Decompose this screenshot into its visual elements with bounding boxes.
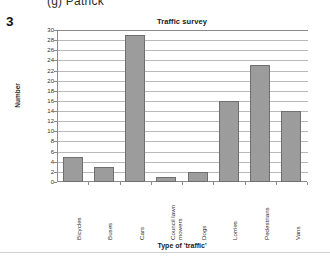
bars-layer (57, 30, 307, 182)
x-tick-mark (120, 182, 121, 185)
x-tick-mark (182, 182, 183, 185)
x-tick-label: Dogs (200, 226, 207, 240)
y-tick-label: 26 (38, 47, 54, 53)
x-tick-label: Lorries (231, 221, 238, 240)
y-tick-label: 6 (38, 149, 54, 155)
bar (188, 172, 208, 182)
x-tick-mark (213, 182, 214, 185)
x-tick-mark (276, 182, 277, 185)
x-tick-label: Pedestrians (263, 207, 270, 240)
x-tick-mark (245, 182, 246, 185)
x-tick-label: Bicycles (75, 217, 82, 240)
bar (219, 101, 239, 182)
x-axis-tick-labels: BicyclesBusesCarsCouncil lawn mowersDogs… (57, 186, 307, 242)
y-tick-label: 14 (38, 108, 54, 114)
bar (63, 157, 83, 182)
y-tick-label: 22 (38, 68, 54, 74)
previous-part-label: (g) Patrick (47, 0, 104, 8)
bar (125, 35, 145, 182)
chart-title: Traffic survey (57, 17, 307, 26)
x-tick-label: Cars (138, 227, 145, 240)
y-tick-label: 18 (38, 88, 54, 94)
x-tick-mark (151, 182, 152, 185)
x-tick-mark (307, 182, 308, 185)
bar-chart-figure: Traffic survey Number 302826242220181614… (0, 14, 330, 267)
x-axis-title: Type of 'traffic' (57, 242, 307, 249)
y-axis-title: Number (14, 73, 21, 119)
bar (281, 111, 301, 182)
x-tick-label: Buses (106, 223, 113, 240)
y-tick-label: 16 (38, 98, 54, 104)
y-tick-label: 10 (38, 128, 54, 134)
y-tick-label: 24 (38, 57, 54, 63)
x-tick-mark (88, 182, 89, 185)
page-bottom-rule (0, 252, 330, 253)
y-tick-label: 4 (38, 159, 54, 165)
y-tick-label: 30 (38, 27, 54, 33)
x-tick-label: Vans (294, 226, 301, 240)
y-axis-tick-labels: 302826242220181614121086420 (35, 30, 54, 182)
worksheet-header: (g) Patrick (0, 0, 330, 14)
y-tick-label: 2 (38, 169, 54, 175)
y-tick-label: 20 (38, 78, 54, 84)
y-tick-label: 8 (38, 138, 54, 144)
x-tick-label: Council lawn mowers (169, 205, 183, 240)
y-tick-label: 0 (38, 179, 54, 185)
bar (94, 167, 114, 182)
y-tick-label: 12 (38, 118, 54, 124)
y-tick-label: 28 (38, 37, 54, 43)
bar (250, 65, 270, 182)
